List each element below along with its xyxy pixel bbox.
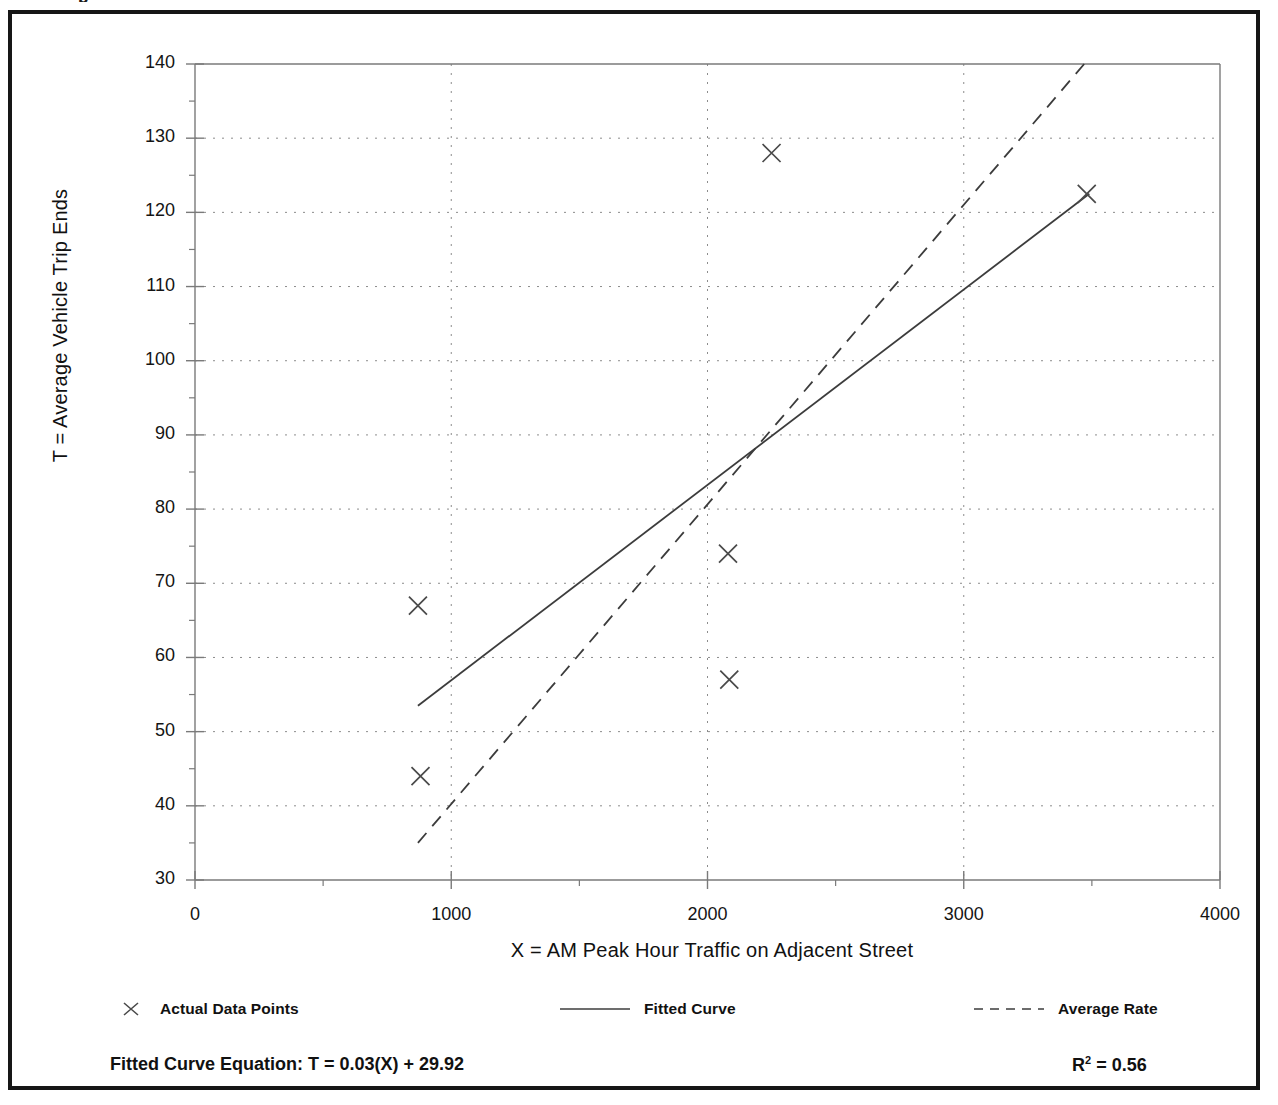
x-tick-label: 1000 — [411, 904, 491, 925]
y-tick-label: 30 — [115, 868, 175, 889]
x-tick-label: 2000 — [668, 904, 748, 925]
y-tick-label: 40 — [115, 794, 175, 815]
solid-line-icon — [558, 999, 632, 1019]
x-tick-label: 0 — [155, 904, 235, 925]
data-point-markers — [409, 144, 1096, 785]
y-tick-label: 90 — [115, 423, 175, 444]
y-tick-label: 140 — [115, 52, 175, 73]
y-tick-label: 130 — [115, 126, 175, 147]
minor-tick-marks — [189, 101, 1092, 886]
y-tick-label: 110 — [115, 275, 175, 296]
x-tick-label: 3000 — [924, 904, 1004, 925]
chart-legend: Actual Data Points Fitted Curve Average … — [72, 996, 1222, 1030]
x-tick-label: 4000 — [1180, 904, 1260, 925]
r-squared-exponent: 2 — [1085, 1054, 1091, 1066]
y-tick-label: 80 — [115, 497, 175, 518]
y-tick-label: 60 — [115, 645, 175, 666]
y-axis-title: T = Average Vehicle Trip Ends — [49, 126, 72, 526]
r-squared-number: = 0.56 — [1096, 1055, 1147, 1075]
x-marker-icon — [118, 999, 148, 1019]
legend-item-average-rate: Average Rate — [972, 996, 1158, 1022]
y-tick-label: 50 — [115, 720, 175, 741]
y-tick-label: 70 — [115, 571, 175, 592]
legend-label-average: Average Rate — [1058, 1000, 1158, 1018]
series-lines — [418, 64, 1089, 843]
scatter-chart — [12, 14, 1256, 1086]
plot-area: 30405060708090100110120130140 0100020003… — [12, 14, 1256, 1086]
legend-item-actual-data-points: Actual Data Points — [118, 996, 299, 1022]
fitted-curve-equation: Fitted Curve Equation: T = 0.03(X) + 29.… — [110, 1054, 464, 1075]
y-tick-label: 100 — [115, 349, 175, 370]
legend-label-fitted: Fitted Curve — [644, 1000, 736, 1018]
gridlines — [195, 64, 1220, 880]
r-squared-symbol: R — [1072, 1055, 1085, 1075]
dashed-line-icon — [972, 999, 1046, 1019]
clipped-header-text: p — [78, 0, 88, 2]
y-tick-label: 120 — [115, 200, 175, 221]
legend-label-actual: Actual Data Points — [160, 1000, 299, 1018]
legend-item-fitted-curve: Fitted Curve — [558, 996, 736, 1022]
equation-row: Fitted Curve Equation: T = 0.03(X) + 29.… — [72, 1054, 1222, 1088]
r-squared-value: R2 = 0.56 — [1072, 1054, 1147, 1076]
major-tick-marks — [186, 64, 1220, 889]
x-axis-title: X = AM Peak Hour Traffic on Adjacent Str… — [192, 939, 1232, 962]
figure-frame: 30405060708090100110120130140 0100020003… — [8, 10, 1260, 1090]
